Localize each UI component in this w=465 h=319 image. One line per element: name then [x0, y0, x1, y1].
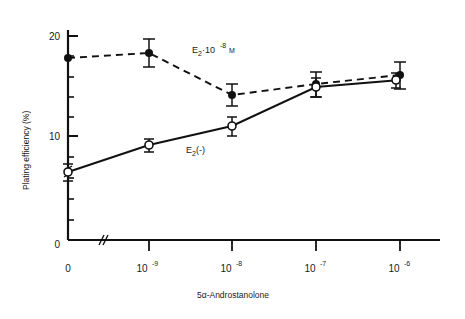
x-tick-label-1e-8-exp: -8	[236, 260, 242, 267]
x-tick-label-0: 0	[65, 263, 71, 274]
y-tick-label-0: 0	[54, 239, 60, 250]
datapoint-filled-1e-8	[228, 91, 236, 99]
x-tick-label-1e-6-exp: -6	[404, 260, 410, 267]
y-tick-label-20: 20	[49, 31, 61, 42]
datapoint-open-1e-6	[392, 76, 400, 84]
series-1-label-sup: -8	[220, 42, 226, 49]
y-tick-label-10: 10	[49, 131, 61, 142]
datapoint-filled-0	[64, 54, 72, 62]
series-1-label-tail: M	[229, 47, 235, 54]
plating-efficiency-chart: 20 10 0 Plating efficiency (%) 0 10 -9 1…	[0, 0, 465, 319]
x-tick-label-1e-6-base: 10	[388, 263, 400, 274]
y-axis-title: Plating efficiency (%)	[21, 111, 31, 190]
datapoint-open-1e-8	[228, 122, 236, 130]
x-axis-title: 5α-Androstanolone	[197, 290, 269, 300]
series-2-label-tail: (-)	[196, 145, 205, 155]
datapoint-open-0	[64, 168, 72, 176]
series-1-label-mid: ·10	[202, 45, 215, 55]
x-tick-label-1e-9-exp: -9	[152, 260, 158, 267]
x-tick-label-1e-9-base: 10	[136, 263, 148, 274]
x-tick-label-1e-8-base: 10	[220, 263, 232, 274]
datapoint-open-1e-9	[145, 141, 153, 149]
datapoint-open-1e-7	[312, 83, 320, 91]
datapoint-filled-1e-9	[145, 49, 153, 57]
x-tick-label-1e-7-exp: -7	[320, 260, 326, 267]
x-tick-label-1e-7-base: 10	[304, 263, 316, 274]
